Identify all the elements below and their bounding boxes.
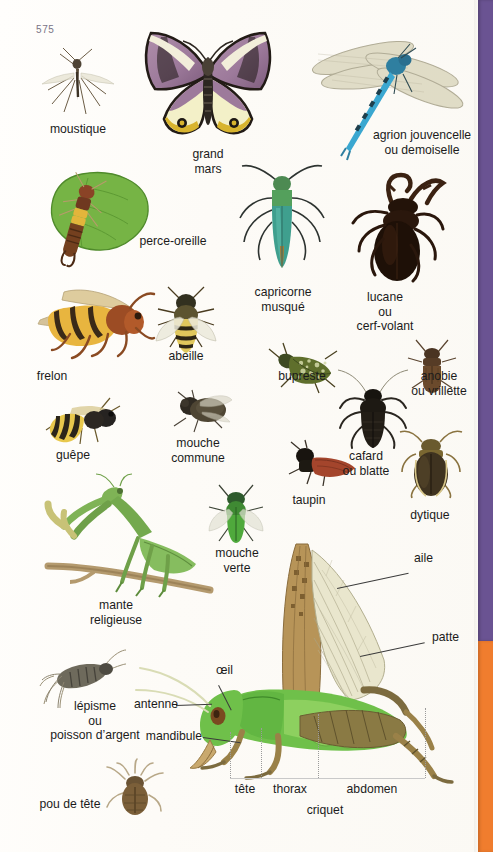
label-anobie: anobie ou vrillette [394,369,484,398]
label-antenne: antenne [128,697,178,712]
illustration-lucane [345,175,450,290]
label-capricorne: capricorne musqué [239,285,327,314]
label-dytique: dytique [395,508,465,523]
label-mante: mante religieuse [72,598,160,627]
label-bupreste: bupreste [263,369,341,384]
illustration-dytique [400,430,462,498]
illustration-guepe [38,396,130,454]
label-patte: patte [432,630,480,645]
orange-index-tab [478,641,493,852]
segment-divider-head-start [230,732,231,778]
dictionary-plate-page: 575 [0,0,493,852]
illustration-moustique [30,42,125,124]
label-oeil: œil [216,663,250,678]
label-taupin: taupin [276,493,342,508]
label-mouche-commune: mouche commune [155,436,241,465]
illustration-grand-mars [133,27,283,145]
label-pou-de-tete: pou de tête [20,797,120,812]
label-abdomen: abdomen [320,782,424,797]
label-mandibule: mandibule [134,729,202,744]
illustration-mouche-commune [168,390,234,434]
label-mouche-verte: mouche verte [203,546,271,575]
label-thorax: thorax [263,782,317,797]
illustration-capricorne [238,168,326,274]
label-grand-mars: grand mars [166,147,250,176]
illustration-mouche-verte [207,485,265,545]
page-number: 575 [36,24,55,35]
label-abeille: abeille [152,349,220,364]
label-frelon: frelon [22,369,82,384]
label-tete: tête [228,782,262,797]
segment-divider-head-thorax [261,728,262,778]
label-perce-oreille: perce-oreille [123,234,223,249]
label-lucane: lucane ou cerf-volant [337,290,433,334]
label-agrion: agrion jouvencelle ou demoiselle [355,128,489,157]
segment-baseline [230,778,425,779]
label-guepe: guêpe [41,448,105,463]
label-criquet: criquet [290,803,360,818]
label-moustique: moustique [34,122,122,137]
segment-divider-thorax-abdomen [318,714,319,778]
label-aile: aile [414,551,458,566]
purple-index-tab [478,0,493,641]
segment-divider-abdomen-end [425,708,426,778]
label-cafard: cafard ou blatte [324,449,408,478]
illustration-frelon [30,278,156,360]
illustration-abeille [150,285,222,357]
